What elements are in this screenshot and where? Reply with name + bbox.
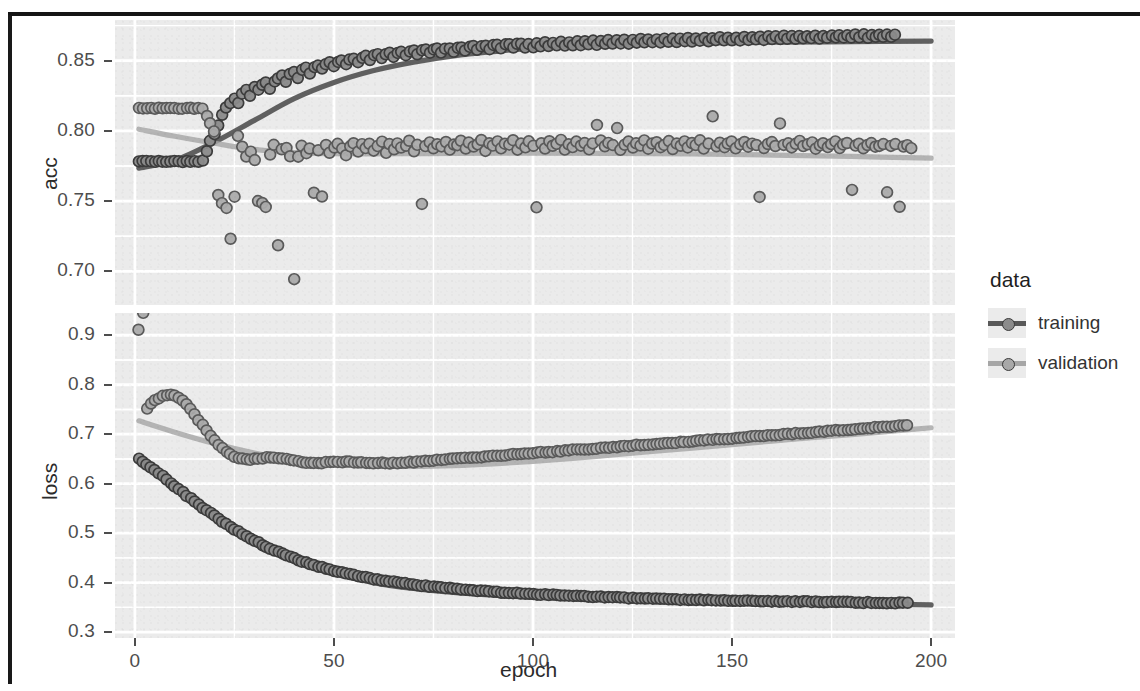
x-tick-label: 200 <box>891 650 971 672</box>
gridlines <box>115 20 955 305</box>
plot-region: 0.850.800.750.70 0.90.80.70.60.50.40.3 0… <box>0 0 1140 691</box>
panel-acc <box>115 20 955 305</box>
y-tick-label: 0.75 <box>10 189 95 211</box>
y-tick-mark <box>104 384 112 386</box>
legend: data training validation <box>988 268 1138 386</box>
y-tick-label: 0.3 <box>10 620 95 642</box>
legend-title: data <box>990 268 1138 292</box>
x-tick-mark <box>532 638 534 646</box>
legend-item-validation[interactable]: validation <box>988 346 1138 380</box>
y-tick-mark <box>104 270 112 272</box>
figure-page: 0.850.800.750.70 0.90.80.70.60.50.40.3 0… <box>0 0 1140 691</box>
panel-acc-canvas <box>115 20 955 305</box>
y-tick-mark <box>104 483 112 485</box>
y-tick-mark <box>104 433 112 435</box>
legend-item-training[interactable]: training <box>988 306 1138 340</box>
x-axis-title: epoch <box>500 658 557 682</box>
x-tick-label: 50 <box>294 650 374 672</box>
x-tick-mark <box>134 638 136 646</box>
y-tick-label: 0.70 <box>10 259 95 281</box>
x-tick-mark <box>333 638 335 646</box>
y-tick-label: 0.5 <box>10 521 95 543</box>
y-axis-title-loss: loss <box>38 463 62 500</box>
scan-frame-top-edge <box>8 12 1136 15</box>
y-tick-label: 0.85 <box>10 49 95 71</box>
y-tick-mark <box>104 532 112 534</box>
y-tick-mark <box>104 582 112 584</box>
x-tick-label: 0 <box>95 650 175 672</box>
y-tick-mark <box>104 130 112 132</box>
y-tick-label: 0.8 <box>10 373 95 395</box>
y-tick-mark <box>104 631 112 633</box>
x-tick-mark <box>930 638 932 646</box>
y-tick-mark <box>104 60 112 62</box>
legend-key-validation-icon <box>988 348 1026 378</box>
y-tick-label: 0.7 <box>10 422 95 444</box>
points-training <box>134 453 913 608</box>
y-tick-mark <box>104 200 112 202</box>
x-tick-mark <box>731 638 733 646</box>
legend-label-validation: validation <box>1038 352 1118 374</box>
x-tick-label: 150 <box>692 650 772 672</box>
y-tick-mark <box>104 334 112 336</box>
panel-loss-canvas <box>115 313 955 638</box>
y-axis-title-acc: acc <box>38 157 62 190</box>
y-tick-label: 0.4 <box>10 571 95 593</box>
y-tick-label: 0.9 <box>10 323 95 345</box>
legend-label-training: training <box>1038 312 1100 334</box>
panel-loss <box>115 313 955 638</box>
y-tick-label: 0.80 <box>10 119 95 141</box>
legend-key-training-icon <box>988 308 1026 338</box>
